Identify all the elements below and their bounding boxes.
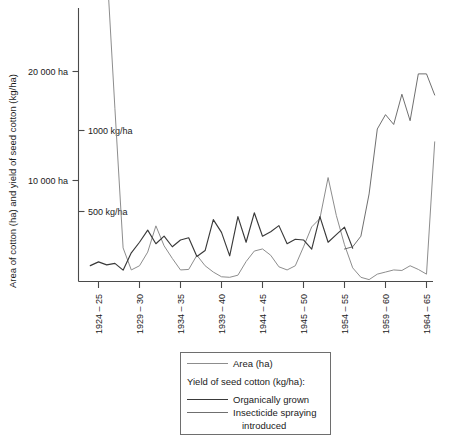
- y-tick-label-20000ha: 20 000 ha: [28, 67, 68, 77]
- y-axis-ticks-outer: [73, 72, 79, 181]
- x-tick-label-1934-35: 1934 – 35: [176, 294, 186, 334]
- series-line-insecticide-spraying: [345, 74, 435, 249]
- legend-label-insecticide-spraying: Insecticide spraying: [233, 407, 316, 418]
- series-line-organically-grown: [90, 213, 352, 270]
- x-tick-label-1939-40: 1939 – 40: [217, 294, 227, 334]
- y-axis-title: Area of cotton (ha) and yield of seed co…: [7, 74, 18, 288]
- line-chart: Area of cotton (ha) and yield of seed co…: [0, 0, 449, 442]
- x-axis-ticks: [99, 282, 427, 289]
- legend-label-area: Area (ha): [233, 358, 273, 369]
- x-tick-label-1929-30: 1929 – 30: [135, 294, 145, 334]
- y-tick-label-1000kgha: 1000 kg/ha: [88, 126, 133, 136]
- x-tick-label-1945-50: 1945 – 50: [299, 294, 309, 334]
- legend: Area (ha) Yield of seed cotton (kg/ha): …: [181, 353, 331, 435]
- x-tick-label-1964-65: 1964 – 65: [422, 294, 432, 334]
- chart-figure: Area of cotton (ha) and yield of seed co…: [0, 0, 449, 442]
- plot-series-group: [90, 0, 434, 280]
- y-tick-label-10000ha: 10 000 ha: [28, 176, 68, 186]
- x-tick-label-1954-55: 1954 – 55: [340, 294, 350, 334]
- x-tick-label-1959-60: 1959 – 60: [381, 294, 391, 334]
- y-axis-ticks-inner: [79, 131, 85, 212]
- legend-label-introduced: introduced: [242, 420, 286, 431]
- x-tick-label-1924-25: 1924 – 25: [94, 294, 104, 334]
- legend-label-organically-grown: Organically grown: [233, 394, 309, 405]
- x-tick-label-1944-45: 1944 – 45: [258, 294, 268, 334]
- legend-label-yield-heading: Yield of seed cotton (kg/ha):: [187, 376, 305, 387]
